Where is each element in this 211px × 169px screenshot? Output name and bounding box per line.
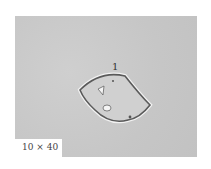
annotation-label: 1 bbox=[112, 61, 118, 72]
inclusion-oval bbox=[103, 105, 111, 111]
magnification-label: 10 × 40 bbox=[22, 142, 58, 152]
inclusion-dot bbox=[112, 80, 114, 82]
inclusion-dot bbox=[129, 116, 132, 119]
cell-outline bbox=[80, 75, 150, 122]
